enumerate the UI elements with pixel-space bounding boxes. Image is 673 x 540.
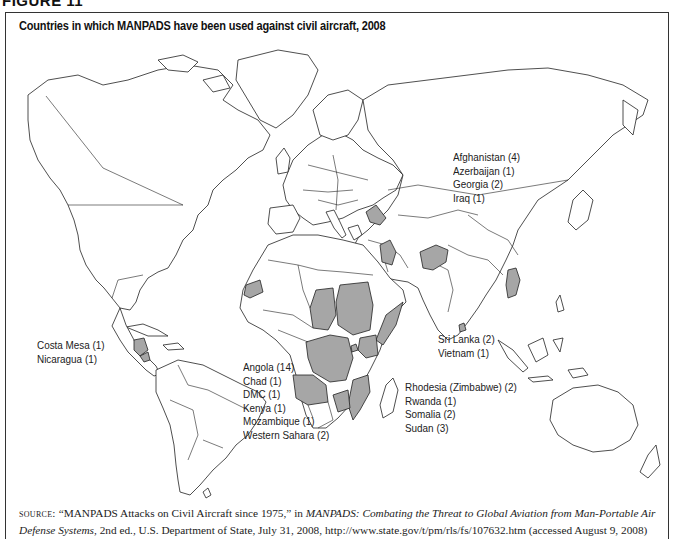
source-quote: “MANPADS Attacks on Civil Aircraft since… [59, 507, 306, 519]
figure-label: FIGURE 11 [2, 0, 83, 9]
source-prefix: source: [19, 507, 56, 519]
label-group-asia: Sri Lanka (2) Vietnam (1) [438, 333, 495, 360]
label-group-middle-east: Afghanistan (4) Azerbaijan (1) Georgia (… [453, 151, 520, 205]
label-costa-mesa: Costa Mesa (1) [37, 339, 105, 353]
label-rhodesia-zimbabwe: Rhodesia (Zimbabwe) (2) [405, 381, 517, 395]
label-chad: Chad (1) [243, 375, 329, 389]
source-details: , 2nd ed., U.S. Department of State, Jul… [94, 524, 647, 536]
southeast-asia-islands [498, 295, 588, 382]
label-georgia: Georgia (2) [453, 178, 520, 192]
label-dmc: DMC (1) [243, 388, 329, 402]
label-angola: Angola (14) [243, 361, 329, 375]
world-map [8, 40, 666, 500]
label-western-sahara: Western Sahara (2) [243, 429, 329, 443]
australia [550, 385, 660, 478]
label-rwanda: Rwanda (1) [405, 395, 517, 409]
label-vietnam: Vietnam (1) [438, 347, 495, 361]
map-title: Countries in which MANPADS have been use… [19, 19, 385, 33]
central-america [112, 308, 160, 376]
label-group-africa-east: Rhodesia (Zimbabwe) (2) Rwanda (1) Somal… [405, 381, 517, 435]
label-kenya: Kenya (1) [243, 402, 329, 416]
label-sri-lanka: Sri Lanka (2) [438, 333, 495, 347]
label-somalia: Somalia (2) [405, 408, 517, 422]
antarctic-fragment [203, 488, 211, 498]
label-sudan: Sudan (3) [405, 422, 517, 436]
country-vietnam [506, 268, 520, 298]
country-georgia-azerbaijan [366, 205, 386, 225]
label-group-central-america: Costa Mesa (1) Nicaragua (1) [37, 339, 105, 366]
label-iraq: Iraq (1) [453, 192, 520, 206]
source-note: source: “MANPADS Attacks on Civil Aircra… [19, 505, 664, 539]
label-mozambique: Mozambique (1) [243, 415, 329, 429]
label-azerbaijan: Azerbaijan (1) [453, 165, 520, 179]
country-sudan [336, 282, 373, 335]
label-nicaragua: Nicaragua (1) [37, 353, 105, 367]
label-afghanistan: Afghanistan (4) [453, 151, 520, 165]
label-group-africa-west: Angola (14) Chad (1) DMC (1) Kenya (1) M… [243, 361, 329, 442]
